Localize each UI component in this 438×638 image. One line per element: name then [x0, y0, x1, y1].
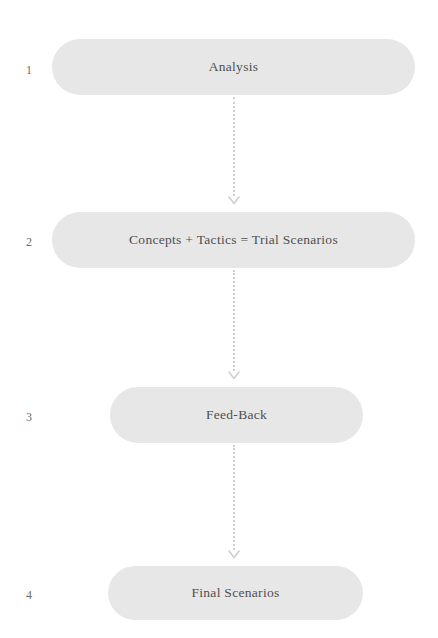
process-box-final-scenarios[interactable]: Final Scenarios: [108, 566, 363, 620]
flowchart-canvas: 1 Analysis 2 Concepts + Tactics = Trial …: [0, 0, 438, 638]
process-box-label-final-scenarios: Final Scenarios: [191, 585, 279, 601]
process-box-feedback[interactable]: Feed-Back: [110, 387, 363, 443]
step-number-2: 2: [20, 236, 38, 248]
arrow-down-icon: [228, 550, 240, 559]
process-box-analysis[interactable]: Analysis: [52, 39, 415, 95]
process-box-label-concepts-tactics: Concepts + Tactics = Trial Scenarios: [129, 232, 338, 248]
process-box-label-analysis: Analysis: [209, 59, 259, 75]
process-box-label-feedback: Feed-Back: [206, 407, 267, 423]
connector-2-to-3: [227, 270, 241, 380]
connector-3-to-4: [227, 445, 241, 559]
arrow-down-icon: [228, 196, 240, 205]
connector-1-to-2: [227, 97, 241, 205]
step-number-3: 3: [20, 411, 38, 423]
connector-line: [233, 270, 235, 371]
connector-line: [233, 97, 235, 196]
arrow-down-icon: [228, 371, 240, 380]
connector-line: [233, 445, 235, 550]
step-number-4: 4: [20, 589, 38, 601]
process-box-concepts-tactics[interactable]: Concepts + Tactics = Trial Scenarios: [52, 212, 415, 268]
step-number-1: 1: [20, 64, 38, 76]
